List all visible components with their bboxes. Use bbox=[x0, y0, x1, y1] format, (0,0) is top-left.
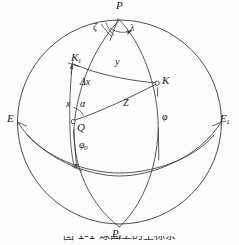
point-label-Q: Q bbox=[77, 122, 85, 133]
point-marker-Q bbox=[71, 120, 75, 124]
figure-caption-strip: 图 1-1 球面上的坐标系 bbox=[0, 236, 239, 245]
point-label-E: E bbox=[7, 113, 14, 124]
subscript-phi0: 0 bbox=[84, 144, 88, 152]
angle-label-zeta: ζ bbox=[93, 22, 97, 32]
subscript-K1: 1 bbox=[78, 57, 82, 65]
figure-root: P P1 E E1 Q K K1 ζ λ α φ φ0 y Δx x bbox=[0, 0, 239, 245]
meridian-segment-K1-Q bbox=[70, 62, 75, 168]
sphere-outline bbox=[18, 20, 222, 224]
point-label-K: K bbox=[162, 75, 169, 86]
point-label-E1: E1 bbox=[220, 113, 230, 126]
equator-front-arc bbox=[18, 122, 222, 176]
angle-label-lambda: λ bbox=[130, 23, 134, 33]
segment-label-x: x bbox=[66, 99, 70, 109]
sphere-diagram-svg bbox=[0, 0, 239, 245]
segment-label-delta-x: Δx bbox=[80, 77, 90, 87]
equator-rear-arc bbox=[18, 93, 222, 122]
point-label-K1: K1 bbox=[71, 52, 81, 65]
segment-label-Z: Z bbox=[123, 98, 129, 108]
angle-label-phi: φ bbox=[162, 112, 168, 122]
figure-caption: 图 1-1 球面上的坐标系 bbox=[0, 236, 239, 242]
great-circle-arc-QK bbox=[75, 84, 157, 120]
point-label-P: P bbox=[116, 0, 123, 11]
point-marker-K bbox=[155, 81, 159, 85]
meridian-through-K bbox=[120, 20, 159, 227]
subscript-E1: 1 bbox=[226, 118, 230, 126]
angle-label-alpha: α bbox=[80, 99, 85, 109]
parallel-phi0-front bbox=[27, 135, 214, 173]
angle-label-phi0: φ0 bbox=[79, 140, 88, 152]
segment-label-y: y bbox=[115, 57, 119, 67]
arrow-phi0-down bbox=[74, 130, 77, 168]
